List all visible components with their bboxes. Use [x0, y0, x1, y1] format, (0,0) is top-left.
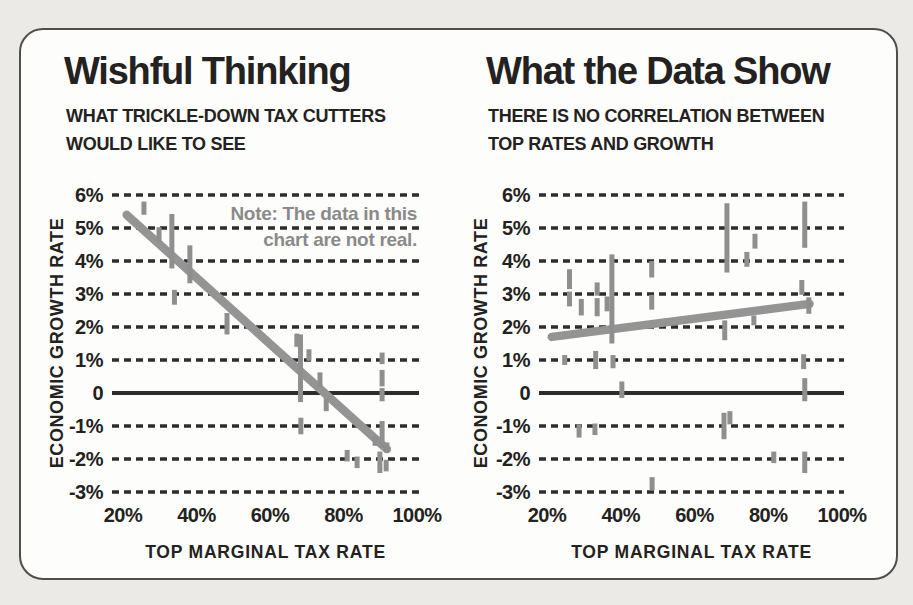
chart-what-data-show: 6%5%4%3%2%1%0-1%-2%-3%20%40%60%80%100% W… [21, 30, 896, 578]
page-title-right: What the Data Show [486, 50, 830, 93]
chart-subtitle-right: THERE IS NO CORRELATION BETWEEN TOP RATE… [488, 102, 824, 158]
y-axis-title-right: ECONOMIC GROWTH RATE [470, 193, 492, 493]
chart-panel: 6%5%4%3%2%1%0-1%-2%-3%20%40%60%80%100% W… [19, 28, 898, 580]
x-tick-label: 100% [807, 503, 877, 527]
subtitle-line: TOP RATES AND GROWTH [488, 130, 824, 158]
x-tick-label: 40% [586, 503, 656, 527]
subtitle-line: THERE IS NO CORRELATION BETWEEN [488, 102, 824, 130]
page-background: { "page": { "background": "#eceae6" }, "… [0, 0, 913, 605]
x-axis-title-right: TOP MARGINAL TAX RATE [539, 542, 844, 563]
x-tick-label: 20% [512, 503, 582, 527]
x-tick-label: 80% [733, 503, 803, 527]
x-tick-label: 60% [660, 503, 730, 527]
